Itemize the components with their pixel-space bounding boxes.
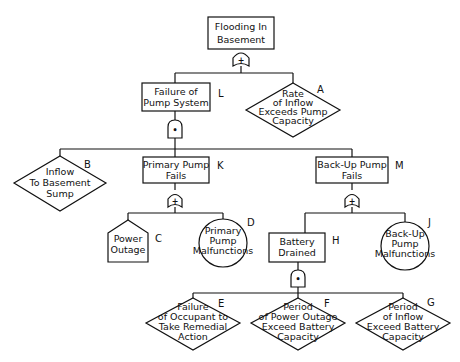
node-C-power-outage: Power Outage C xyxy=(108,220,162,262)
svg-text:Malfunctions: Malfunctions xyxy=(193,245,253,256)
svg-text:Sump: Sump xyxy=(46,188,73,199)
or-gate-icon: + xyxy=(345,195,359,208)
node-letter: G xyxy=(427,297,435,308)
node-letter: C xyxy=(155,233,162,244)
node-letter: J xyxy=(427,217,431,228)
node-F-period-of-power-outage: Period of Power Outage Exceed Battery Ca… xyxy=(251,298,345,350)
node-D-primary-pump-malfunctions: Primary Pump Malfunctions D xyxy=(193,217,255,267)
and-gate-icon: • xyxy=(291,270,305,287)
node-M-backup-pump-fails: Back-Up Pump Fails M + xyxy=(316,157,404,207)
or-gate-icon: + xyxy=(233,53,249,66)
node-J-backup-pump-malfunctions: Back-Up Pump Malfunctions J xyxy=(375,217,435,270)
svg-text:Fails: Fails xyxy=(166,170,187,181)
node-letter: B xyxy=(84,159,91,170)
node-letter: A xyxy=(317,84,324,95)
svg-text:Pump System: Pump System xyxy=(143,97,208,108)
svg-text:Malfunctions: Malfunctions xyxy=(375,248,435,259)
node-G-period-of-inflow: Period of Inflow Exceed Battery Capacity… xyxy=(356,297,450,350)
svg-text:Failure of: Failure of xyxy=(154,86,198,97)
node-L-failure-of-pump-system: Failure of Pump System L • xyxy=(142,83,224,138)
svg-text:Battery: Battery xyxy=(279,236,315,247)
node-H-battery-drained: Battery Drained H • xyxy=(269,233,340,287)
svg-text:Action: Action xyxy=(178,331,208,342)
svg-text:Capacity: Capacity xyxy=(277,331,319,342)
node-letter: M xyxy=(395,160,404,171)
node-E-failure-of-occupant: Failure of Occupant to Take Remedial Act… xyxy=(146,298,240,350)
svg-text:Drained: Drained xyxy=(278,247,316,258)
svg-text:Power: Power xyxy=(114,233,143,244)
fault-tree-diagram: Flooding In Basement + Failure of Pump S… xyxy=(0,0,460,362)
svg-text:+: + xyxy=(349,197,356,206)
svg-text:+: + xyxy=(238,56,245,65)
svg-text:Capacity: Capacity xyxy=(382,331,424,342)
top-event-line-2: Basement xyxy=(217,34,265,45)
svg-text:Primary Pump: Primary Pump xyxy=(143,159,210,170)
svg-text:Fails: Fails xyxy=(342,170,363,181)
node-K-primary-pump-fails: Primary Pump Fails K + xyxy=(143,157,224,207)
node-letter: K xyxy=(217,160,224,171)
svg-text:Outage: Outage xyxy=(111,244,146,255)
svg-text:Capacity: Capacity xyxy=(272,115,314,126)
svg-text:•: • xyxy=(172,126,177,135)
svg-text:+: + xyxy=(172,197,179,206)
top-event-line-1: Flooding In xyxy=(215,21,267,32)
or-gate-icon: + xyxy=(168,195,182,208)
node-letter: E xyxy=(218,298,224,309)
node-letter: F xyxy=(324,298,330,309)
node-A-rate-of-inflow: Rate of Inflow Exceeds Pump Capacity A xyxy=(246,83,340,137)
node-B-inflow-to-basement-sump: Inflow To Basement Sump B xyxy=(14,156,106,211)
svg-text:•: • xyxy=(295,275,300,284)
svg-text:To Basement: To Basement xyxy=(29,177,91,188)
and-gate-icon: • xyxy=(168,120,182,138)
top-event: Flooding In Basement + xyxy=(208,17,274,66)
node-letter: D xyxy=(247,217,255,228)
svg-text:Back-Up Pump: Back-Up Pump xyxy=(317,159,386,170)
node-letter: H xyxy=(332,235,340,246)
node-letter: L xyxy=(218,88,224,99)
svg-text:Inflow: Inflow xyxy=(46,166,75,177)
